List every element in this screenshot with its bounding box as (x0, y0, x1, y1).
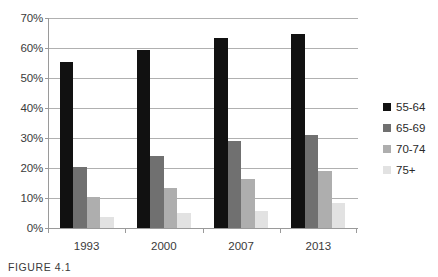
y-axis-tick-label: 50% (21, 72, 43, 84)
bar (100, 217, 114, 228)
legend-item-label: 65-69 (396, 122, 425, 134)
bars-layer (48, 18, 357, 228)
bar (150, 156, 164, 228)
bar (241, 179, 255, 229)
y-axis-tick-label: 70% (21, 12, 43, 24)
bar (87, 197, 101, 229)
legend: 55-6465-6970-7475+ (383, 96, 438, 180)
x-axis-tick-mark (125, 228, 126, 233)
x-axis-tick-mark (356, 228, 357, 233)
x-axis-tick-label: 2007 (228, 240, 254, 252)
x-axis-tick-label: 2013 (306, 240, 332, 252)
bar (228, 141, 242, 228)
bar (73, 167, 87, 228)
bar (332, 203, 346, 229)
x-axis: 1993200020072013 (48, 228, 357, 229)
legend-item-label: 75+ (396, 164, 416, 176)
bar-chart: 0%10%20%30%40%50%60%70% 1993200020072013 (0, 0, 375, 250)
bar (318, 171, 332, 228)
bar (305, 135, 319, 228)
x-axis-tick-mark (48, 228, 49, 233)
legend-item: 75+ (383, 159, 438, 180)
legend-item: 70-74 (383, 138, 438, 159)
x-axis-tick-label: 1993 (74, 240, 100, 252)
x-axis-tick-mark (280, 228, 281, 233)
figure-caption: FIGURE 4.1 (8, 261, 71, 273)
y-axis-tick-label: 20% (21, 162, 43, 174)
legend-item: 55-64 (383, 96, 438, 117)
figure-container: 0%10%20%30%40%50%60%70% 1993200020072013… (0, 0, 438, 277)
bar (60, 62, 74, 229)
legend-swatch-icon (383, 124, 391, 132)
legend-item-label: 55-64 (396, 101, 425, 113)
y-axis-tick-label: 0% (27, 222, 43, 234)
y-axis-tick-label: 10% (21, 192, 43, 204)
bar (291, 34, 305, 228)
legend-swatch-icon (383, 103, 391, 111)
bar (177, 213, 191, 228)
y-axis-tick-label: 30% (21, 132, 43, 144)
x-axis-tick-label: 2000 (151, 240, 177, 252)
y-axis-tick-label: 40% (21, 102, 43, 114)
bar (214, 38, 228, 228)
legend-item: 65-69 (383, 117, 438, 138)
bar (255, 211, 269, 228)
y-axis-tick-label: 60% (21, 42, 43, 54)
x-axis-tick-mark (203, 228, 204, 233)
legend-swatch-icon (383, 166, 391, 174)
bar (164, 188, 178, 228)
legend-item-label: 70-74 (396, 143, 425, 155)
bar (137, 50, 151, 228)
legend-swatch-icon (383, 145, 391, 153)
